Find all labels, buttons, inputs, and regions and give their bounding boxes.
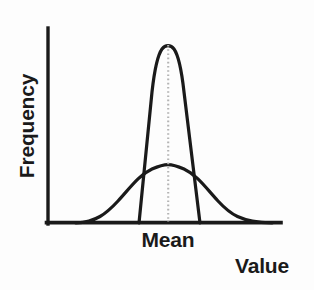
wide-distribution-curve [76, 165, 272, 223]
x-axis-title: Value [202, 255, 314, 276]
y-axis-title: Frequency [16, 28, 40, 224]
narrow-distribution-curve [139, 46, 200, 223]
distribution-chart: Frequency Mean Value [0, 0, 314, 290]
mean-tick-label: Mean [108, 229, 228, 250]
